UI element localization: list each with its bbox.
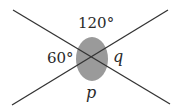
angle-marker-disc — [76, 37, 108, 81]
angle-label-top: 120° — [78, 14, 114, 32]
angle-diagram: 120° 60° q p — [0, 0, 182, 110]
angle-label-right: q — [113, 47, 123, 66]
angle-label-left: 60° — [47, 49, 74, 67]
angle-label-bottom: p — [86, 83, 96, 102]
